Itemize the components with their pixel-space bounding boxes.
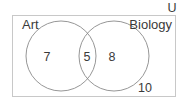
count-intersection: 5 — [84, 50, 91, 64]
count-outside-sets: 10 — [138, 81, 152, 95]
venn-diagram: U Art Biology 7 5 8 10 — [0, 0, 185, 105]
count-art-only: 7 — [44, 50, 51, 64]
venn-diagram-canvas: U Art Biology 7 5 8 10 — [0, 0, 185, 105]
universal-set-label: U — [167, 1, 176, 15]
set-label-biology: Biology — [129, 17, 172, 32]
set-label-art: Art — [22, 17, 39, 32]
count-biology-only: 8 — [109, 50, 116, 64]
